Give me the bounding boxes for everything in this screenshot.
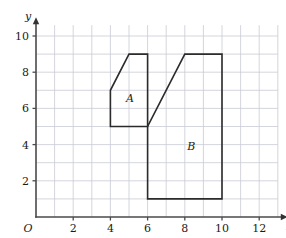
x-tick-label: 4 [107,222,114,235]
axes-layer [33,17,286,220]
coordinate-figure: 24681012246810xyOAB [0,0,286,238]
grid-layer [36,25,278,217]
ticks-layer [33,36,260,221]
x-tick-label: 12 [252,222,266,235]
shape-label-b: B [186,140,195,153]
origin-label: O [23,222,32,235]
x-tick-label: 8 [181,222,188,235]
x-tick-label: 2 [70,222,77,235]
plot-canvas: 24681012246810xyOAB [0,0,286,238]
y-tick-label: 4 [22,139,29,152]
y-axis-name: y [24,10,32,23]
y-tick-label: 6 [22,102,29,115]
y-axis-arrowhead [33,17,39,24]
shape-label-a: A [125,92,134,105]
y-tick-label: 8 [22,66,29,79]
x-tick-label: 6 [144,222,151,235]
y-tick-label: 2 [22,175,29,188]
x-tick-label: 10 [215,222,229,235]
y-tick-label: 10 [15,30,29,43]
